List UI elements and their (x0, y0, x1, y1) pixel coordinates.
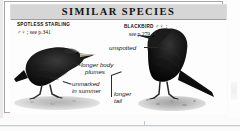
species-label-starling: SPOTLESS STARLING ♂♀ ; see p.341 (17, 23, 70, 35)
species-reference-starling: ♂♀ ; see p.341 (17, 29, 70, 35)
panel-body: SPOTLESS STARLING ♂♀ ; see p.341 BLACKBI… (10, 20, 227, 114)
gender-symbols-blackbird: ♂♀ ; (155, 23, 167, 29)
similar-species-panel: SIMILAR SPECIES (4, 1, 223, 113)
page-right-edge (228, 0, 240, 118)
annotation-line-1: unmarked (72, 80, 101, 87)
species-name-starling: SPOTLESS STARLING (17, 23, 70, 28)
species-reference-blackbird: see p.279 (129, 31, 167, 37)
leader-line-tail (111, 75, 112, 97)
annotation-unmarked-in-summer: unmarked in summer (72, 80, 101, 94)
annotation-longer-tail: longer tail (114, 90, 131, 104)
page-title: SIMILAR SPECIES (62, 6, 176, 17)
annotation-longer-body-plumes: longer body plumes (81, 61, 113, 75)
panel-header: SIMILAR SPECIES (10, 4, 227, 20)
leader-line-unspotted (144, 47, 159, 48)
page-left-edge (0, 0, 3, 118)
annotation-line-2: in summer (72, 87, 101, 94)
annotation-line-2: plumes (85, 68, 113, 75)
species-name-blackbird: BLACKBIRD ♂♀ ; (124, 23, 167, 30)
species-label-blackbird: BLACKBIRD ♂♀ ; see p.279 (124, 23, 167, 37)
annotation-unspotted: unspotted (109, 44, 136, 51)
page-root: SIMILAR SPECIES (0, 0, 240, 131)
annotation-line-1: longer body (81, 61, 113, 68)
page-bottom-rule-shadow (0, 126, 240, 127)
page-edge-artifact (231, 82, 237, 100)
annotation-line-1: longer (114, 90, 131, 97)
annotation-line-2: tail (114, 97, 131, 104)
page-bottom-tick (144, 121, 145, 126)
